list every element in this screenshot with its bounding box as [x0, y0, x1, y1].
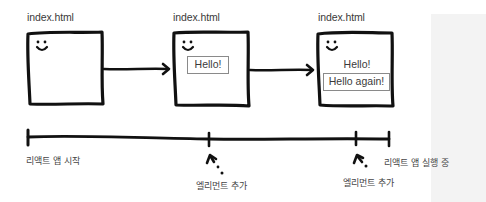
timeline-event-label-2: 엘리먼트 추가	[343, 176, 394, 189]
file-label-1: index.html	[27, 11, 74, 23]
diagram-canvas	[0, 0, 486, 202]
element-hello: Hello!	[187, 56, 229, 74]
frame-1	[28, 32, 103, 104]
dotted-arrow-icon	[354, 155, 368, 168]
timeline-end-label: 리액트 앱 실행 중	[384, 156, 449, 169]
file-label-2: index.html	[173, 11, 220, 23]
file-label-3: index.html	[318, 11, 365, 23]
arrow-icon	[250, 65, 313, 75]
timeline	[28, 130, 389, 175]
element-hello: Hello!	[336, 58, 378, 70]
timeline-event-label-1: 엘리먼트 추가	[196, 179, 247, 192]
arrow-icon	[104, 64, 169, 74]
element-hello-again: Hello again!	[323, 73, 390, 91]
timeline-start-label: 리액트 앱 시작	[26, 154, 80, 167]
dotted-arrow-icon	[207, 155, 224, 175]
